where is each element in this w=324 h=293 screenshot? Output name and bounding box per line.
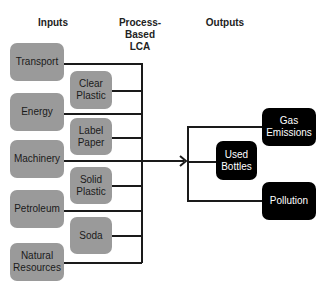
connector-label-paper — [112, 137, 142, 139]
output-label-line1: Gas — [280, 115, 298, 127]
connector-energy — [64, 113, 142, 115]
connector-natural-resources — [64, 262, 142, 264]
connector-clear-plastic — [112, 90, 142, 92]
output-gas-emissions: Gas Emissions — [262, 108, 316, 146]
connector-transport — [64, 63, 142, 65]
material-label-line1: Clear — [79, 78, 103, 90]
output-bus-line — [187, 126, 189, 201]
process-header-line2: Based — [110, 29, 170, 41]
connector-machinery — [64, 160, 184, 162]
output-pollution: Pollution — [262, 182, 316, 220]
output-used-bottles: Used Bottles — [216, 141, 257, 180]
input-label: Energy — [21, 106, 53, 118]
material-clear-plastic: Clear Plastic — [70, 71, 112, 109]
connector-solid-plastic — [112, 185, 142, 187]
input-label: Machinery — [14, 153, 60, 165]
process-lca-header: Process- Based LCA — [110, 17, 170, 53]
output-label-line1: Used — [225, 149, 248, 161]
input-petroleum: Petroleum — [10, 190, 64, 228]
process-header-line1: Process- — [110, 17, 170, 29]
output-label-line2: Bottles — [221, 161, 252, 173]
material-label-line2: Paper — [78, 137, 105, 149]
outputs-header: Outputs — [200, 17, 250, 29]
output-label-line2: Emissions — [266, 127, 312, 139]
input-energy: Energy — [10, 93, 64, 131]
input-label-line1: Natural — [21, 250, 53, 262]
input-natural-resources: Natural Resources — [10, 243, 64, 281]
material-label-line1: Solid — [80, 174, 102, 186]
input-label: Petroleum — [14, 203, 60, 215]
inputs-header: Inputs — [28, 17, 78, 29]
input-label: Transport — [16, 56, 58, 68]
input-machinery: Machinery — [10, 140, 64, 178]
output-label: Pollution — [270, 195, 308, 207]
connector-used-bottles — [187, 161, 217, 163]
material-label-line2: Plastic — [76, 186, 105, 198]
material-label-line1: Label — [79, 125, 103, 137]
input-transport: Transport — [10, 43, 64, 81]
process-bus-line — [141, 63, 143, 263]
process-header-line3: LCA — [110, 41, 170, 53]
material-label: Soda — [79, 230, 102, 242]
input-label-line2: Resources — [13, 262, 61, 274]
connector-gas-emissions — [187, 126, 263, 128]
material-solid-plastic: Solid Plastic — [70, 167, 112, 204]
connector-soda — [112, 235, 142, 237]
material-soda: Soda — [70, 217, 112, 254]
material-label-paper: Label Paper — [70, 118, 112, 155]
material-label-line2: Plastic — [76, 90, 105, 102]
connector-petroleum — [64, 210, 142, 212]
connector-pollution — [187, 200, 263, 202]
